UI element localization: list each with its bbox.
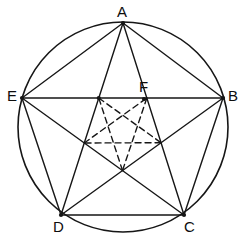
vertex-dot-b: [221, 96, 225, 100]
inner-star-chord-3: [99, 98, 123, 171]
cropped-caption-text: [0, 241, 244, 250]
vertex-dot-a: [121, 21, 125, 25]
vertex-dot-d: [59, 213, 63, 217]
vertex-label-a: A: [117, 4, 127, 19]
vertex-label-b: B: [228, 88, 238, 103]
circumcircle-group: [18, 22, 228, 232]
circumcircle: [18, 22, 228, 232]
vertex-label-c: C: [184, 219, 195, 234]
point-label-f: F: [139, 79, 148, 94]
inner-node-left-top: [97, 96, 101, 100]
vertex-dot-c: [182, 213, 186, 217]
pentagon-edge-de: [22, 98, 61, 215]
diagonal-ce: [22, 98, 184, 215]
geometry-figure: A B C D E F: [0, 0, 244, 250]
pentagon-edge-bc: [184, 98, 223, 215]
inner-star-chord-1: [123, 98, 147, 171]
diagonal-ac: [123, 23, 184, 215]
pentagon-pentagram-diagram: [0, 0, 244, 250]
diagonal-ad: [61, 23, 123, 215]
diagonal-bd: [61, 98, 223, 215]
vertex-dot-e: [20, 96, 24, 100]
inner-star-chord-4: [84, 98, 147, 143]
inner-star-chord-0: [99, 98, 161, 143]
vertex-label-d: D: [53, 219, 64, 234]
vertex-label-e: E: [7, 88, 17, 103]
point-dot-f: [142, 97, 146, 101]
pentagram-diagonals: [22, 23, 223, 215]
